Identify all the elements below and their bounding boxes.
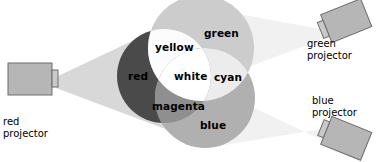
red-projector-icon bbox=[8, 63, 58, 95]
label-green: green bbox=[204, 27, 239, 39]
label-red: red bbox=[128, 70, 148, 82]
red-projector-label-line2: projector bbox=[3, 128, 48, 140]
red-projector-label-line1: red bbox=[3, 116, 48, 128]
label-yellow: yellow bbox=[155, 41, 194, 53]
label-white: white bbox=[174, 70, 207, 82]
color-mixing-diagram: green yellow red white cyan magenta blue… bbox=[0, 0, 379, 162]
blue-projector-icon bbox=[315, 114, 372, 160]
label-blue: blue bbox=[200, 119, 226, 131]
green-projector-label-line1: green bbox=[307, 38, 352, 50]
label-cyan: cyan bbox=[214, 71, 242, 83]
blue-projector-label-line1: blue bbox=[312, 95, 357, 107]
blue-projector-label: blue projector bbox=[312, 95, 357, 118]
red-projector-label: red projector bbox=[3, 116, 48, 139]
blue-projector-label-line2: projector bbox=[312, 107, 357, 119]
green-projector-label: green projector bbox=[307, 38, 352, 61]
green-projector-label-line2: projector bbox=[307, 50, 352, 62]
label-magenta: magenta bbox=[152, 100, 205, 112]
